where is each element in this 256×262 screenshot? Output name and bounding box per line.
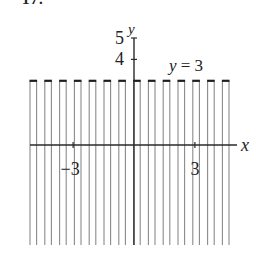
inequality-graph: −3345xyy = 3 <box>0 0 256 262</box>
shaded-region-hatching <box>30 81 230 245</box>
x-tick-label: −3 <box>61 159 80 179</box>
boundary-annotation: y = 3 <box>167 56 203 75</box>
x-axis-label: x <box>240 135 249 155</box>
axes <box>30 38 237 245</box>
x-tick-label: 3 <box>190 159 199 179</box>
y-tick-label: 4 <box>115 49 124 69</box>
y-tick-label: 5 <box>115 28 124 48</box>
y-axis-label: y <box>126 21 135 37</box>
